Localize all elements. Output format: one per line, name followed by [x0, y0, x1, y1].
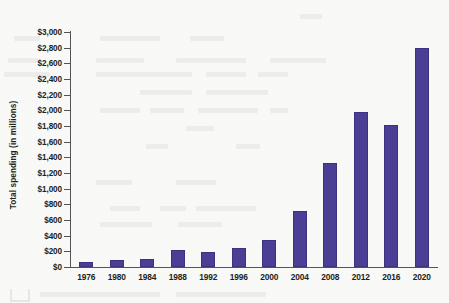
y-axis-tick-labels: $0$200$400$600$800$1,000$1,200$1,400$1,6…: [0, 0, 62, 303]
x-axis-tick-label: 1984: [138, 272, 156, 282]
y-axis-tick-label: $1,200: [4, 169, 62, 178]
y-axis-tick: [64, 95, 70, 96]
y-axis-tick-label: $2,800: [4, 43, 62, 52]
y-axis-tick-label: $1,800: [4, 122, 62, 131]
y-axis-tick: [64, 220, 70, 221]
x-axis-tick-label: 1976: [77, 272, 95, 282]
x-axis-tick-label: 1996: [230, 272, 248, 282]
bar: [415, 48, 429, 267]
x-axis-tick-label: 2008: [321, 272, 339, 282]
y-axis-tick-label: $2,000: [4, 106, 62, 115]
y-axis-tick: [64, 267, 70, 268]
x-axis-line: [70, 267, 438, 268]
y-axis-tick: [64, 32, 70, 33]
x-axis-tick-label: 2004: [291, 272, 309, 282]
y-axis-tick: [64, 204, 70, 205]
bar-chart-figure: Total spending (in millions) $0$200$400$…: [0, 0, 449, 303]
y-axis-tick: [64, 126, 70, 127]
y-axis-tick-label: $2,200: [4, 90, 62, 99]
x-axis-tick-label: 1992: [199, 272, 217, 282]
y-axis-tick-label: $600: [4, 216, 62, 225]
y-axis-tick: [64, 63, 70, 64]
y-axis-tick: [64, 79, 70, 80]
x-axis-tick-label: 2016: [382, 272, 400, 282]
y-axis-tick: [64, 236, 70, 237]
bar: [354, 112, 368, 267]
bar: [232, 248, 246, 267]
x-axis-tick-label: 2000: [260, 272, 278, 282]
y-axis-tick: [64, 173, 70, 174]
bar: [171, 250, 185, 267]
y-axis-tick-label: $400: [4, 231, 62, 240]
y-axis-tick-label: $800: [4, 200, 62, 209]
y-axis-tick: [64, 157, 70, 158]
bar: [293, 211, 307, 267]
x-axis-tick-label: 1980: [108, 272, 126, 282]
y-axis-tick: [64, 189, 70, 190]
y-axis-tick-label: $3,000: [4, 28, 62, 37]
y-axis-tick-label: $1,000: [4, 184, 62, 193]
x-axis-tick-labels: 1976198019841988199219962000200420082012…: [71, 272, 437, 286]
plot-area: [71, 32, 437, 267]
y-axis-tick-label: $2,600: [4, 59, 62, 68]
y-axis-tick-label: $200: [4, 247, 62, 256]
y-axis-tick-label: $1,400: [4, 153, 62, 162]
bar: [262, 240, 276, 267]
y-axis-tick-label: $0: [4, 263, 62, 272]
y-axis-tick: [64, 48, 70, 49]
bar: [384, 125, 398, 267]
bar: [323, 163, 337, 267]
y-axis-tick: [64, 110, 70, 111]
bar: [201, 252, 215, 267]
bar: [110, 260, 124, 267]
bar: [140, 259, 154, 267]
y-axis-tick: [64, 142, 70, 143]
x-axis-tick-label: 1988: [169, 272, 187, 282]
y-axis-tick-label: $2,400: [4, 75, 62, 84]
x-axis-tick-label: 2020: [413, 272, 431, 282]
y-axis-line: [70, 31, 71, 268]
y-axis-tick-label: $1,600: [4, 137, 62, 146]
y-axis-tick: [64, 251, 70, 252]
x-axis-tick-label: 2012: [352, 272, 370, 282]
